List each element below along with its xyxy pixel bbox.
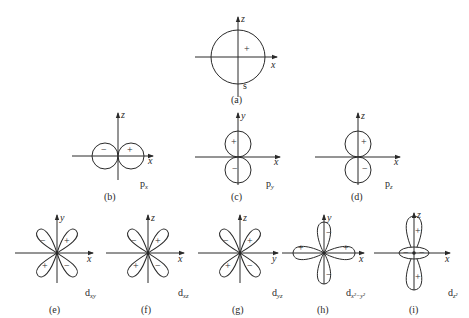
axis-label-z: z bbox=[416, 209, 421, 220]
sign-minus: − bbox=[362, 163, 368, 174]
panel-g-dyz-orbital: z y − + + − dyz (g) bbox=[198, 212, 283, 316]
caption-a: (a) bbox=[231, 94, 242, 106]
panel-e-dxy-orbital: y x − + + − dxy (e) bbox=[15, 212, 96, 316]
axis-label-z: z bbox=[120, 109, 125, 120]
sign-plus: + bbox=[225, 260, 231, 271]
axis-label-x: x bbox=[270, 59, 276, 70]
caption-h: (h) bbox=[317, 304, 329, 316]
panel-c-py-orbital: y x + − py (c) bbox=[195, 110, 280, 203]
axis-label-z: z bbox=[150, 212, 155, 223]
sign-minus: − bbox=[101, 144, 107, 155]
axis-label-z: z bbox=[242, 212, 247, 223]
caption-i: (i) bbox=[409, 304, 418, 316]
sign-plus: + bbox=[127, 144, 133, 155]
caption-e: (e) bbox=[49, 304, 60, 316]
sign-minus: − bbox=[247, 260, 253, 271]
orbital-diagram: z x + s (a) z x − + px (b) y x + − py (c… bbox=[0, 0, 469, 318]
axis-label-x: x bbox=[393, 156, 399, 167]
axis-label-y: y bbox=[59, 212, 65, 223]
lobe-upper-left bbox=[127, 227, 148, 257]
sign-minus: − bbox=[155, 260, 161, 271]
sign-plus: + bbox=[244, 43, 250, 54]
sign-minus: − bbox=[403, 247, 409, 258]
orbital-label-s: s bbox=[243, 80, 247, 91]
sign-minus: − bbox=[64, 260, 70, 271]
sign-plus: + bbox=[415, 225, 421, 236]
sign-minus: − bbox=[232, 163, 238, 174]
orbital-label-dyz: dyz bbox=[272, 287, 283, 299]
panel-d-pz-orbital: z x + − pz (d) bbox=[315, 110, 400, 203]
sign-plus: + bbox=[415, 271, 421, 282]
sign-minus: − bbox=[326, 269, 332, 280]
axis-label-x: x bbox=[177, 253, 183, 264]
sign-minus: − bbox=[40, 235, 46, 246]
caption-f: (f) bbox=[141, 304, 151, 316]
sign-plus: + bbox=[231, 136, 237, 147]
orbital-label-pz: pz bbox=[385, 178, 393, 190]
orbital-label-dz2: dz² bbox=[448, 287, 459, 299]
axis-label-x: x bbox=[147, 155, 153, 166]
axis-label-x: x bbox=[273, 156, 279, 167]
caption-d: (d) bbox=[351, 191, 363, 203]
axis-label-x: x bbox=[86, 253, 92, 264]
axis-label-x: x bbox=[444, 253, 450, 264]
axis-label-y: y bbox=[326, 212, 332, 223]
sign-plus: + bbox=[42, 260, 48, 271]
lobe-upper-left bbox=[36, 227, 57, 257]
caption-g: (g) bbox=[232, 304, 244, 316]
panel-f-dxz-orbital: z x − + + − dxz (f) bbox=[106, 212, 189, 316]
caption-c: (c) bbox=[231, 191, 242, 203]
sign-minus: − bbox=[223, 235, 229, 246]
panel-a-s-orbital: z x + s (a) bbox=[195, 13, 277, 106]
panel-h-dx2y2-orbital: y x − + + − dx²−y² (h) bbox=[282, 212, 366, 316]
sign-plus: + bbox=[133, 260, 139, 271]
axis-label-y: y bbox=[271, 253, 277, 264]
orbital-label-dxz: dxz bbox=[178, 287, 189, 299]
sign-plus: + bbox=[155, 235, 161, 246]
axis-label-x: x bbox=[358, 253, 364, 264]
sign-minus: − bbox=[419, 247, 425, 258]
orbital-label-py: py bbox=[266, 178, 274, 190]
caption-b: (b) bbox=[104, 191, 116, 203]
panel-b-px-orbital: z x − + px (b) bbox=[72, 109, 153, 203]
sign-minus: − bbox=[131, 235, 137, 246]
panel-i-dz2-orbital: z x + − − + dz² (i) bbox=[374, 209, 459, 316]
sign-minus: − bbox=[326, 227, 332, 238]
axis-label-z: z bbox=[240, 13, 245, 24]
orbital-label-dxy: dxy bbox=[85, 287, 96, 299]
sign-plus: + bbox=[298, 242, 304, 253]
sign-plus: + bbox=[343, 242, 349, 253]
sign-plus: + bbox=[247, 235, 253, 246]
sign-plus: + bbox=[361, 136, 367, 147]
orbital-label-dx2-y2: dx²−y² bbox=[346, 287, 366, 299]
axis-label-z: z bbox=[360, 110, 365, 121]
lobe-upper-left bbox=[219, 227, 240, 257]
orbital-label-px: px bbox=[140, 178, 148, 190]
axis-label-y: y bbox=[240, 110, 246, 121]
sign-plus: + bbox=[64, 235, 70, 246]
